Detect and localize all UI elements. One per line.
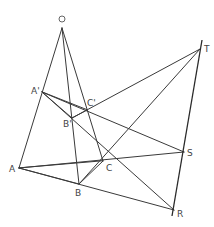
label-a1: A' [31, 86, 40, 96]
label-b: B [75, 188, 81, 198]
label-a: A [9, 164, 16, 174]
line-bc-t [79, 49, 200, 184]
label-r: R [177, 209, 183, 219]
label-s: S [187, 148, 193, 158]
label-b1: B' [63, 119, 72, 129]
label-c: C [106, 163, 112, 173]
label-t: T [203, 44, 210, 54]
desargues-diagram: A' C' B' A B C T S R [0, 0, 214, 227]
triangle-abc-hatched [19, 161, 103, 184]
center-o-circle [59, 16, 65, 22]
line-ac-s [19, 152, 184, 168]
label-c1: C' [87, 98, 96, 108]
perspective-axis [172, 40, 202, 216]
